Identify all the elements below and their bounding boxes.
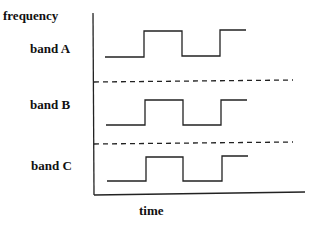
band-b-signal bbox=[106, 100, 247, 125]
band-c-signal bbox=[107, 156, 248, 181]
separator-line-2 bbox=[94, 142, 293, 144]
diagram-graphic bbox=[0, 0, 313, 227]
y-axis-line bbox=[93, 13, 94, 195]
x-axis-line bbox=[94, 192, 305, 195]
band-a-signal bbox=[105, 30, 246, 57]
separator-line-1 bbox=[94, 80, 293, 82]
